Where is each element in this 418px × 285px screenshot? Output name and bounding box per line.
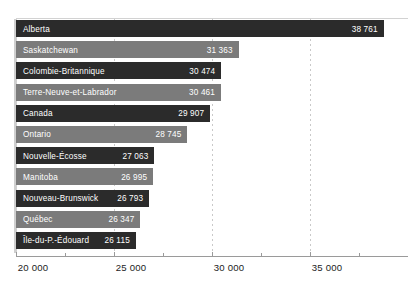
bar-category-label: Nouvelle-Écosse	[23, 151, 87, 160]
bar-category-label: Terre-Neuve-et-Labrador	[23, 88, 117, 97]
bar[interactable]: Colombie-Britannique30 474	[16, 62, 221, 79]
bar-row[interactable]: Saskatchewan31 363	[0, 41, 418, 62]
bar-value-label: 26 793	[117, 194, 143, 203]
x-tick-label: 25 000	[116, 262, 147, 273]
bar-row[interactable]: Colombie-Britannique30 474	[0, 62, 418, 83]
bar[interactable]: Nouveau-Brunswick26 793	[16, 190, 149, 207]
bar-row[interactable]: Nouveau-Brunswick26 793	[0, 190, 418, 211]
bar-value-label: 28 745	[155, 130, 181, 139]
bar[interactable]: Manitoba26 995	[16, 168, 153, 185]
x-tick-label: 30 000	[214, 262, 245, 273]
bar[interactable]: Alberta38 761	[16, 20, 384, 37]
bar[interactable]: Île-du-P.-Édouard26 115	[16, 232, 136, 249]
x-tick-label: 35 000	[312, 262, 343, 273]
bar[interactable]: Saskatchewan31 363	[16, 41, 239, 58]
bar-category-label: Île-du-P.-Édouard	[23, 236, 89, 245]
x-tick-major	[114, 252, 115, 257]
bar-category-label: Québec	[23, 215, 53, 224]
bar-category-label: Saskatchewan	[23, 45, 78, 54]
bar-category-label: Ontario	[23, 130, 51, 139]
bar-value-label: 27 063	[122, 151, 148, 160]
bar-category-label: Nouveau-Brunswick	[23, 194, 98, 203]
x-tick-minor	[261, 253, 262, 257]
bar[interactable]: Ontario28 745	[16, 126, 187, 143]
x-tick-minor	[359, 253, 360, 257]
bar[interactable]: Terre-Neuve-et-Labrador30 461	[16, 84, 221, 101]
bar-row[interactable]: Île-du-P.-Édouard26 115	[0, 232, 418, 253]
x-tick-major	[212, 252, 213, 257]
bar-row[interactable]: Nouvelle-Écosse27 063	[0, 147, 418, 168]
bar-value-label: 26 115	[105, 236, 130, 245]
bar-row[interactable]: Manitoba26 995	[0, 168, 418, 189]
bar-row[interactable]: Alberta38 761	[0, 20, 418, 41]
bar-category-label: Colombie-Britannique	[23, 66, 105, 75]
bar-chart: Alberta38 761Saskatchewan31 363Colombie-…	[0, 0, 418, 285]
x-tick-minor	[163, 253, 164, 257]
bar-value-label: 29 907	[178, 109, 204, 118]
bar[interactable]: Québec26 347	[16, 211, 140, 228]
bar-value-label: 26 995	[121, 172, 147, 181]
bar[interactable]: Canada29 907	[16, 105, 210, 122]
bar-category-label: Alberta	[23, 24, 50, 33]
bar-row[interactable]: Canada29 907	[0, 105, 418, 126]
bar-row[interactable]: Québec26 347	[0, 211, 418, 232]
x-tick-major	[310, 252, 311, 257]
bar-value-label: 31 363	[207, 45, 233, 54]
bar-value-label: 30 461	[189, 88, 215, 97]
bar-value-label: 30 474	[189, 66, 215, 75]
bar-value-label: 26 347	[108, 215, 134, 224]
x-tick-minor	[65, 253, 66, 257]
bar[interactable]: Nouvelle-Écosse27 063	[16, 147, 154, 164]
bar-category-label: Manitoba	[23, 172, 58, 181]
bar-category-label: Canada	[23, 109, 53, 118]
bar-value-label: 38 761	[352, 24, 378, 33]
x-tick-major	[16, 252, 17, 257]
bar-row[interactable]: Ontario28 745	[0, 126, 418, 147]
x-tick-label: 20 000	[18, 262, 49, 273]
bar-row[interactable]: Terre-Neuve-et-Labrador30 461	[0, 84, 418, 105]
bar-row-group: Alberta38 761Saskatchewan31 363Colombie-…	[0, 20, 418, 253]
